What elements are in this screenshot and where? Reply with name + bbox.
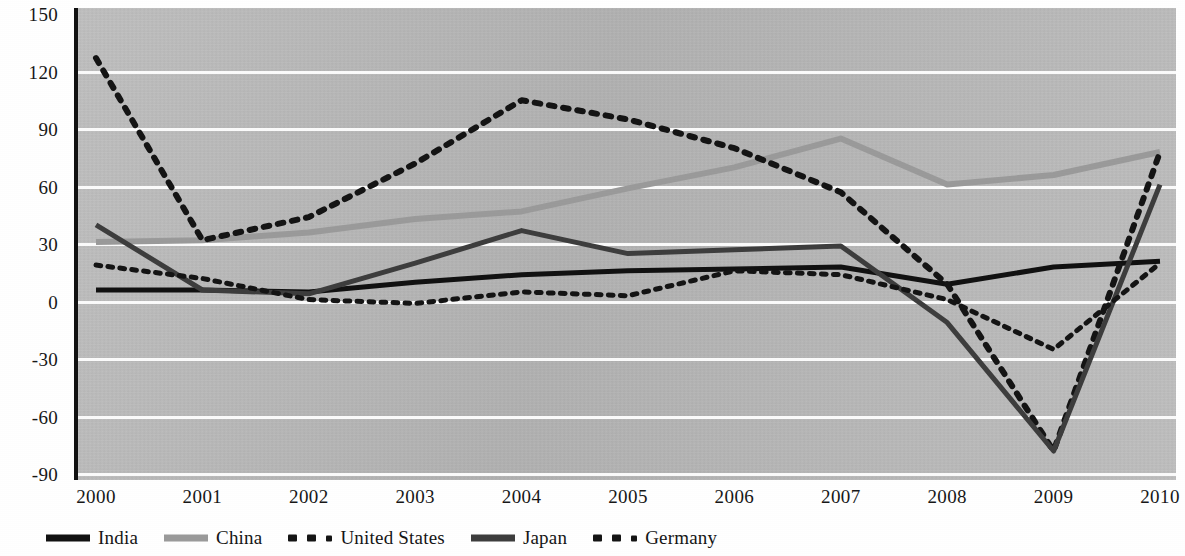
y-tick-label: 0 xyxy=(48,292,58,311)
solid-line-swatch xyxy=(471,531,515,545)
x-tick-label: 2010 xyxy=(1140,486,1180,508)
y-tick-label: 60 xyxy=(38,177,58,196)
plot-area xyxy=(78,8,1176,480)
legend-label: United States xyxy=(340,528,444,548)
x-tick-label: 2001 xyxy=(183,486,223,508)
y-tick-label: 90 xyxy=(38,120,58,139)
dotted-line-swatch xyxy=(288,531,332,545)
x-tick-label: 2002 xyxy=(289,486,329,508)
legend-item-china[interactable]: China xyxy=(164,528,262,548)
legend-item-india[interactable]: India xyxy=(46,528,138,548)
legend-label: Germany xyxy=(645,528,717,548)
y-tick-label: -30 xyxy=(32,350,58,369)
x-tick-label: 2006 xyxy=(715,486,755,508)
y-tick-label: -90 xyxy=(32,465,58,484)
x-tick-label: 2009 xyxy=(1034,486,1074,508)
y-tick-label: 30 xyxy=(38,235,58,254)
dotted-line-swatch xyxy=(593,531,637,545)
x-tick-label: 2008 xyxy=(927,486,967,508)
chart-legend: IndiaChinaUnited StatesJapanGermany xyxy=(46,524,717,552)
x-tick-label: 2000 xyxy=(76,486,116,508)
legend-item-japan[interactable]: Japan xyxy=(471,528,567,548)
legend-item-germany[interactable]: Germany xyxy=(593,528,717,548)
x-tick-label: 2007 xyxy=(821,486,861,508)
series-lines xyxy=(78,8,1176,480)
x-axis: 2000200120022003200420052006200720082009… xyxy=(78,486,1176,516)
legend-label: China xyxy=(216,528,262,548)
y-axis: -90-60-300306090120150 xyxy=(0,0,72,492)
line-chart-figure: -90-60-300306090120150 20002001200220032… xyxy=(0,0,1185,556)
series-line-japan xyxy=(96,185,1160,451)
x-tick-label: 2003 xyxy=(395,486,435,508)
legend-item-united-states[interactable]: United States xyxy=(288,528,444,548)
x-tick-label: 2004 xyxy=(502,486,542,508)
plot-container: -90-60-300306090120150 20002001200220032… xyxy=(0,0,1185,492)
legend-label: India xyxy=(98,528,138,548)
legend-label: Japan xyxy=(523,528,567,548)
solid-line-swatch xyxy=(164,531,208,545)
y-tick-label: 150 xyxy=(29,5,58,24)
y-tick-label: -60 xyxy=(32,407,58,426)
solid-line-swatch xyxy=(46,531,90,545)
y-tick-label: 120 xyxy=(29,62,58,81)
x-tick-label: 2005 xyxy=(608,486,648,508)
